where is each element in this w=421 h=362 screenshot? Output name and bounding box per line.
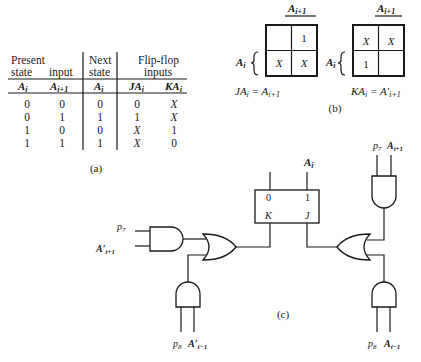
ff-out0: 0	[266, 192, 271, 203]
cell: 0	[171, 137, 177, 149]
ff-out1: 1	[305, 192, 310, 203]
and-gate-k-top	[150, 227, 183, 251]
cell: X	[169, 111, 178, 123]
cell: X	[132, 137, 141, 149]
input-ainot-plus-left: A′i+1	[95, 243, 115, 256]
cell: X	[169, 98, 178, 110]
ff-output-label: Ai	[303, 156, 314, 170]
j-equation: JAi = Ai+1	[235, 85, 280, 99]
input-ainot-minus-left: A′i−1	[187, 338, 207, 351]
wire	[236, 223, 270, 247]
input-p8-left: p8	[172, 338, 182, 351]
header-input: input	[49, 66, 73, 79]
kmap-cell: X	[387, 35, 396, 47]
header-next: Next	[89, 54, 112, 66]
input-p8-right: p8	[367, 338, 377, 351]
brace	[338, 52, 345, 75]
cell: 1	[134, 111, 140, 123]
brace	[251, 52, 258, 75]
cell: 0	[24, 98, 30, 110]
input-p7-left: p7	[116, 221, 126, 234]
cell: 1	[24, 124, 30, 136]
header-present: Present	[11, 54, 46, 66]
ff-j: J	[305, 210, 310, 221]
sub-jai: JAi	[128, 80, 145, 94]
sub-ai: Ai	[17, 80, 28, 94]
circuit: Ai 0 1 K J p7 A′i+1 p8 A′i−1	[95, 140, 403, 351]
header-inputs: inputs	[144, 66, 173, 79]
and-gate-j-bottom	[372, 282, 396, 307]
cell: 1	[171, 124, 177, 136]
state-table: Present state input Next state Flip-flop…	[8, 52, 187, 175]
jmap-cell: 1	[301, 32, 307, 44]
jmap-cell: X	[300, 57, 309, 69]
cell: 1	[24, 137, 30, 149]
or-gate-k	[203, 234, 236, 260]
cell: 1	[97, 111, 103, 123]
jmap-cell: X	[275, 57, 284, 69]
or-gate-j	[337, 234, 370, 260]
and-gate-j-top	[372, 176, 396, 208]
cell: X	[132, 124, 141, 136]
wire	[307, 223, 337, 247]
cell: 0	[134, 98, 140, 110]
cell: 0	[59, 124, 65, 136]
cell: 0	[24, 111, 30, 123]
kmap-col-label: Ai+1	[376, 2, 395, 16]
sub-kai: KAi	[164, 80, 183, 94]
flipflop-design-figure: Present state input Next state Flip-flop…	[0, 0, 421, 362]
cell: 1	[59, 111, 65, 123]
kmap-cell: X	[362, 35, 371, 47]
cell: 0	[97, 124, 103, 136]
caption-a: (a)	[90, 162, 103, 175]
header-state: state	[11, 66, 32, 78]
k-equation: KAi = A′i+1	[350, 85, 401, 99]
and-gate-k-bottom	[176, 282, 200, 307]
header-next-state: state	[89, 66, 110, 78]
cell: 1	[97, 137, 103, 149]
cell: 0	[59, 98, 65, 110]
caption-c: (c)	[277, 308, 290, 321]
kmap-row-label: Ai	[325, 56, 336, 70]
cell: 1	[59, 137, 65, 149]
input-ai-plus-right: Ai+1	[386, 140, 403, 153]
cell: 0	[97, 98, 103, 110]
sub-ai1: Ai+1	[49, 80, 68, 94]
sub-ai-next: Ai	[93, 80, 104, 94]
kmaps: Ai+1 1 X X Ai JAi = Ai+1 Ai+1 X X 1 Ai K…	[235, 2, 404, 115]
jmap-row-label: Ai	[235, 56, 246, 70]
caption-b: (b)	[329, 102, 342, 115]
jmap-col-label: Ai+1	[287, 2, 306, 16]
input-ai-minus-right: Ai−1	[383, 338, 400, 351]
kmap-cell: 1	[363, 58, 369, 70]
input-p7-right: p7	[372, 140, 382, 153]
ff-k: K	[264, 210, 273, 221]
